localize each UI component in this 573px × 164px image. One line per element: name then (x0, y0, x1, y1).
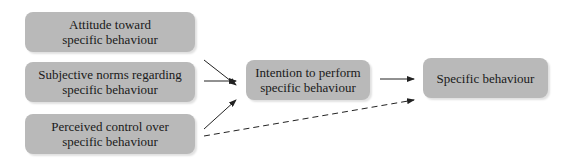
intention-line-2: specific behaviour (255, 80, 360, 95)
control-line-1: Perceived control over (51, 119, 169, 134)
specific-behaviour-box: Specific behaviour (423, 58, 548, 98)
behaviour-line-1: Specific behaviour (437, 71, 535, 86)
attitude-box: Attitude toward specific behaviour (25, 12, 195, 52)
norms-line-1: Subjective norms regarding (38, 67, 182, 82)
intention-line-1: Intention to perform (255, 65, 360, 80)
perceived-control-box: Perceived control over specific behaviou… (25, 114, 195, 154)
attitude-line-2: specific behaviour (62, 32, 158, 47)
norms-line-2: specific behaviour (38, 82, 182, 97)
attitude-line-1: Attitude toward (62, 17, 158, 32)
arrow-control-to-behaviour-dashed (204, 100, 414, 136)
subjective-norms-box: Subjective norms regarding specific beha… (25, 62, 195, 102)
arrow-control-to-intention (204, 100, 236, 129)
intention-box: Intention to perform specific behaviour (246, 60, 370, 100)
control-line-2: specific behaviour (51, 134, 169, 149)
